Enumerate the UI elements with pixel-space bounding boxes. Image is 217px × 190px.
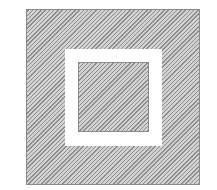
- inner-hatched-square: [78, 62, 149, 132]
